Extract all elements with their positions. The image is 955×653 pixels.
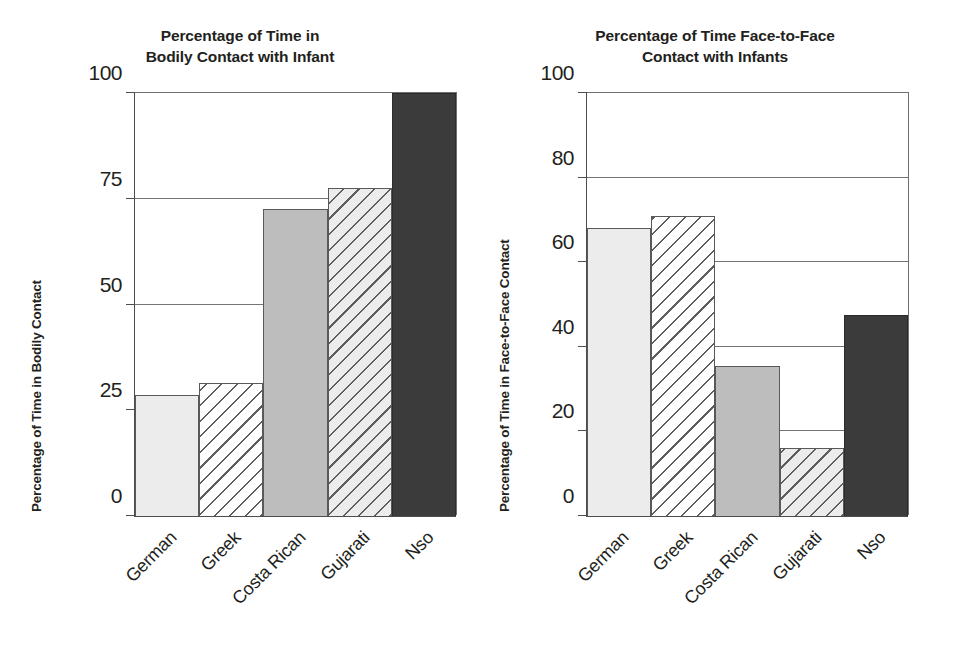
bar-costa-rican [715,366,779,516]
y-ticklabel-50: 50 [100,273,122,294]
bar-german [587,228,651,516]
bar-nso [392,93,456,516]
bar-nso [844,315,908,516]
y-ticklabel-0: 0 [111,485,122,506]
y-tick-25 [126,409,135,410]
bar-gujarati [328,188,392,516]
y-tick-75 [126,198,135,199]
y-ticklabel-0: 0 [563,485,574,506]
y-ticklabel-40: 40 [552,315,574,336]
x-label-greek: Greek [650,528,696,574]
y-ticklabel-75: 75 [100,167,122,188]
bar-group-face-to-face [587,93,908,516]
chart-title-line-1: Percentage of Time Face-to-Face [475,26,955,47]
x-label-gujarati: Gujarati [769,528,825,584]
plot-area-bodily-contact: 0 25 50 75 100 German Greek Costa Rican … [134,93,456,517]
bar-group-bodily-contact [135,93,456,516]
chart-title-line-2: Bodily Contact with Infant [0,47,480,68]
x-label-greek: Greek [198,528,244,574]
figure-two-bar-charts: Percentage of Time in Bodily Contact wit… [0,0,955,653]
x-label-nso: Nso [402,528,437,563]
y-ticklabel-100: 100 [88,62,122,83]
y-tick-40 [578,346,587,347]
x-label-gujarati: Gujarati [317,528,373,584]
y-tick-60 [578,261,587,262]
y-axis-title-face-to-face: Percentage of Time in Face-to-Face Conta… [497,239,512,512]
plot-frame-right [908,92,909,515]
y-ticklabel-60: 60 [552,231,574,252]
y-tick-20 [578,430,587,431]
y-axis-title-bodily-contact: Percentage of Time in Bodily Contact [29,280,44,512]
x-label-german: German [574,528,631,585]
y-tick-0 [126,515,135,516]
y-ticklabel-20: 20 [552,400,574,421]
bar-costa-rican [263,209,327,516]
y-tick-100 [578,92,587,93]
y-ticklabel-100: 100 [540,62,574,83]
y-ticklabel-80: 80 [552,146,574,167]
x-label-nso: Nso [854,528,889,563]
chart-panel-face-to-face: Percentage of Time Face-to-Face Contact … [475,0,955,653]
chart-title-bodily-contact: Percentage of Time in Bodily Contact wit… [0,26,480,67]
y-tick-100 [126,92,135,93]
chart-title-line-1: Percentage of Time in [0,26,480,47]
plot-area-face-to-face: 0 20 40 60 80 100 German Greek Costa Ric… [586,93,908,517]
bar-german [135,395,199,516]
bar-greek [199,383,263,516]
plot-frame-right [456,92,457,515]
y-tick-80 [578,177,587,178]
y-ticklabel-25: 25 [100,379,122,400]
bar-greek [651,216,715,516]
chart-panel-bodily-contact: Percentage of Time in Bodily Contact wit… [0,0,480,653]
x-label-german: German [122,528,179,585]
bar-gujarati [780,448,844,516]
y-tick-0 [578,515,587,516]
y-tick-50 [126,304,135,305]
